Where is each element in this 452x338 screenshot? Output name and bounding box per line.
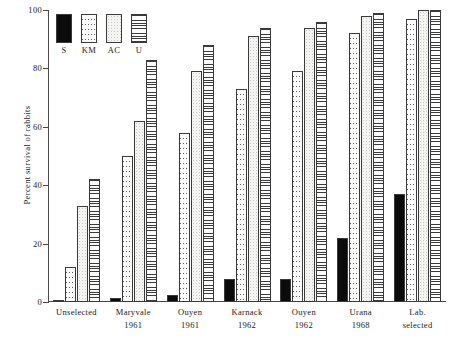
x-tick-label-6: Lab.selected	[389, 306, 446, 332]
x-label-year: selected	[389, 319, 446, 332]
bar-AC-urana-1968	[361, 16, 372, 302]
bar-KM-unselected	[65, 267, 76, 302]
bar-AC-karnack-1962	[248, 36, 259, 302]
bar-U-urana-1968	[373, 13, 384, 302]
bar-S-ouyen-1962	[280, 279, 291, 302]
bar-S-maryvale-1961	[110, 298, 121, 302]
x-label-year	[48, 319, 105, 332]
bar-S-lab-selected	[394, 194, 405, 302]
legend-swatch-km	[81, 14, 97, 43]
legend-swatch-s	[56, 14, 72, 43]
legend-label-s: S	[56, 45, 72, 55]
y-tick-label-20: 20	[33, 239, 42, 249]
x-tick-label-3: Karnack1962	[219, 306, 276, 332]
x-label-location: Ouyen	[292, 307, 316, 317]
x-tick-label-5: Urana1968	[332, 306, 389, 332]
x-label-location: Maryvale	[116, 307, 151, 317]
legend-swatch-ac	[106, 14, 122, 43]
x-label-location: Karnack	[232, 307, 263, 317]
x-label-location: Lab.	[409, 307, 426, 317]
x-label-year: 1962	[219, 319, 276, 332]
legend-label-km: KM	[81, 45, 97, 55]
bar-group	[275, 10, 332, 302]
bar-S-karnack-1962	[224, 279, 235, 302]
bar-chart: Percent survival of rabbits 020406080100…	[0, 0, 452, 338]
y-tick-label-40: 40	[33, 180, 42, 190]
bar-U-unselected	[89, 179, 100, 302]
bar-S-unselected	[53, 300, 64, 302]
legend-swatches	[56, 14, 160, 43]
x-tick-label-1: Maryvale1961	[105, 306, 162, 332]
bar-S-urana-1968	[337, 238, 348, 302]
legend-label-u: U	[131, 45, 147, 55]
bar-U-karnack-1962	[260, 28, 271, 302]
y-tick-0	[43, 302, 49, 303]
legend: SKMACU	[56, 14, 160, 55]
bar-group	[162, 10, 219, 302]
x-tick-label-0: Unselected	[48, 306, 105, 332]
y-tick-label-80: 80	[33, 63, 42, 73]
bar-AC-ouyen-1962	[304, 28, 315, 302]
legend-swatch-u	[131, 14, 147, 43]
bar-AC-unselected	[77, 206, 88, 302]
x-label-year: 1968	[332, 319, 389, 332]
x-axis-tick-labels: Unselected Maryvale1961Ouyen1961Karnack1…	[48, 306, 446, 332]
y-tick-label-0: 0	[37, 297, 42, 307]
y-tick-label-100: 100	[28, 5, 42, 15]
bar-U-lab-selected	[430, 10, 441, 302]
x-tick-label-2: Ouyen1961	[162, 306, 219, 332]
x-label-location: Unselected	[56, 307, 97, 317]
bar-group	[219, 10, 276, 302]
x-label-location: Urana	[350, 307, 372, 317]
y-tick-label-60: 60	[33, 122, 42, 132]
bar-U-ouyen-1961	[203, 45, 214, 302]
x-label-location: Ouyen	[178, 307, 202, 317]
x-label-year: 1961	[162, 319, 219, 332]
bar-AC-lab-selected	[418, 10, 429, 302]
x-tick-label-4: Ouyen1962	[275, 306, 332, 332]
y-axis-tick-labels: 020406080100	[10, 10, 42, 302]
legend-label-ac: AC	[106, 45, 122, 55]
bar-KM-karnack-1962	[236, 89, 247, 302]
bar-AC-ouyen-1961	[191, 71, 202, 302]
bar-group	[389, 10, 446, 302]
legend-labels: SKMACU	[56, 45, 160, 55]
bar-AC-maryvale-1961	[134, 121, 145, 302]
bar-S-ouyen-1961	[167, 295, 178, 302]
bar-KM-lab-selected	[406, 19, 417, 302]
x-label-year: 1962	[275, 319, 332, 332]
bar-KM-maryvale-1961	[122, 156, 133, 302]
bar-U-ouyen-1962	[316, 22, 327, 302]
bar-U-maryvale-1961	[146, 60, 157, 302]
x-label-year: 1961	[105, 319, 162, 332]
bar-group	[332, 10, 389, 302]
bar-KM-urana-1968	[349, 33, 360, 302]
bar-KM-ouyen-1961	[179, 133, 190, 302]
bar-KM-ouyen-1962	[292, 71, 303, 302]
